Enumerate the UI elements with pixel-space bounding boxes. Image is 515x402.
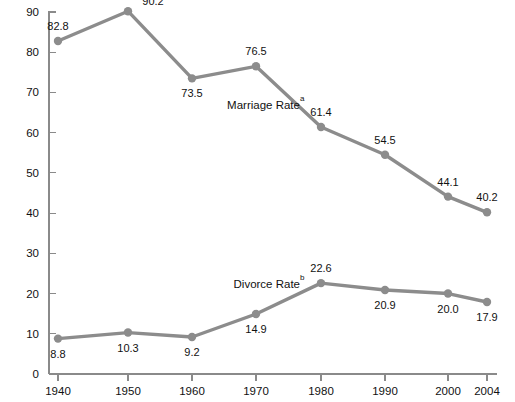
series-annotations: Marriage RateaDivorce Rateb (227, 93, 305, 289)
x-axis-tick-label: 1940 (45, 385, 71, 397)
data-point-marker (444, 289, 452, 297)
data-point-marker (381, 151, 389, 159)
data-point-value-label: 90.2 (142, 0, 163, 7)
data-point-marker (124, 7, 132, 15)
data-point-marker (124, 328, 132, 336)
x-axis-tick-label: 1950 (115, 385, 141, 397)
y-axis-tick-label: 20 (26, 288, 39, 300)
data-point-value-label: 54.5 (374, 134, 395, 146)
data-point-marker (444, 192, 452, 200)
line-chart: 0102030405060708090 19401950196019701980… (0, 0, 515, 402)
data-point-value-label: 40.2 (476, 191, 497, 203)
data-point-value-label: 14.9 (245, 323, 266, 335)
y-axis-tick-label: 30 (26, 247, 39, 259)
x-axis-tick-label: 1990 (372, 385, 398, 397)
data-point-value-label: 20.0 (437, 303, 458, 315)
y-axis-tick-label: 10 (26, 328, 39, 340)
data-point-marker (381, 286, 389, 294)
series-line (58, 283, 487, 339)
chart-plot-area: 0102030405060708090 19401950196019701980… (0, 0, 515, 402)
data-point-value-label: 76.5 (245, 45, 266, 57)
data-point-marker (252, 62, 260, 70)
y-axis-tick-label: 90 (26, 6, 39, 18)
data-point-marker (188, 333, 196, 341)
y-axis-tick-label: 0 (33, 368, 39, 380)
data-point-marker (317, 279, 325, 287)
data-point-value-label: 8.8 (50, 348, 65, 360)
x-axis-tick-label: 1960 (179, 385, 205, 397)
series-annotation-label: Divorce Rateb (234, 272, 305, 290)
data-point-marker (483, 298, 491, 306)
x-axis-tick-labels: 19401950196019701980199020002004 (45, 385, 500, 397)
data-point-value-label: 10.3 (117, 342, 138, 354)
y-axis-tick-label: 70 (26, 86, 39, 98)
x-axis-tick-label: 2000 (435, 385, 461, 397)
x-axis-tick-label: 2004 (474, 385, 500, 397)
data-point-value-label: 20.9 (374, 299, 395, 311)
data-point-value-label: 61.4 (310, 106, 331, 118)
data-point-value-label: 82.8 (47, 20, 68, 32)
y-axis-tick-label: 40 (26, 207, 39, 219)
x-axis-tick-label: 1980 (308, 385, 334, 397)
y-axis-tick-label: 60 (26, 127, 39, 139)
data-point-marker (317, 123, 325, 131)
series-line (58, 11, 487, 212)
data-point-marker (54, 37, 62, 45)
x-axis-tick-label: 1970 (243, 385, 269, 397)
data-point-value-label: 73.5 (181, 87, 202, 99)
y-axis-tick-label: 50 (26, 167, 39, 179)
series-annotation-label: Marriage Ratea (227, 93, 305, 111)
data-point-marker (54, 334, 62, 342)
data-point-marker (252, 310, 260, 318)
tick-marks (49, 12, 487, 381)
data-point-value-label: 22.6 (310, 262, 331, 274)
axes (49, 11, 497, 374)
data-point-marker (483, 208, 491, 216)
y-axis-tick-labels: 0102030405060708090 (26, 6, 39, 380)
data-point-value-label: 9.2 (184, 346, 199, 358)
data-point-marker (188, 74, 196, 82)
data-point-value-label: 17.9 (476, 311, 497, 323)
y-axis-tick-label: 80 (26, 46, 39, 58)
data-point-value-label: 44.1 (437, 176, 458, 188)
